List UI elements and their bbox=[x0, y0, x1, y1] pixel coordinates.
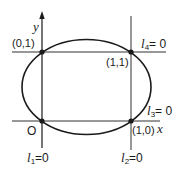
line-label-l2: l2=0 bbox=[121, 150, 143, 166]
point-1-1 bbox=[128, 49, 133, 54]
y-axis-label: y bbox=[31, 19, 39, 34]
origin-label: O bbox=[27, 124, 36, 138]
conic-diagram: y x O (0,1) (1,1) (1,0) l4= 0 l3= 0 l1=0… bbox=[0, 0, 180, 174]
y-axis-arrow-icon bbox=[39, 11, 44, 19]
point-origin bbox=[39, 118, 44, 123]
point-label-1-1: (1,1) bbox=[106, 56, 129, 68]
point-label-1-0: (1,0) bbox=[132, 124, 155, 136]
x-axis-label: x bbox=[156, 121, 163, 136]
line-label-l3: l3= 0 bbox=[147, 103, 172, 119]
point-0-1 bbox=[39, 49, 44, 54]
line-label-l1: l1=0 bbox=[27, 150, 49, 166]
line-label-l4: l4= 0 bbox=[141, 36, 166, 52]
point-label-0-1: (0,1) bbox=[12, 37, 35, 49]
point-1-0 bbox=[128, 118, 133, 123]
